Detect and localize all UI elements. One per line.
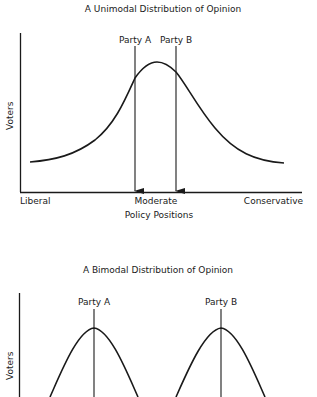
unimodal-y-label: Voters — [5, 101, 15, 130]
tick-conservative: Conservative — [244, 196, 304, 206]
tick-moderate: Moderate — [135, 196, 178, 206]
bimodal-party-a-label: Party A — [78, 297, 111, 307]
bimodal-chart: A Bimodal Distribution of Opinion Voters… — [5, 265, 265, 397]
bimodal-title: A Bimodal Distribution of Opinion — [83, 265, 233, 275]
opinion-distribution-diagrams: A Unimodal Distribution of Opinion Voter… — [0, 0, 317, 397]
bimodal-y-label: Voters — [5, 351, 15, 380]
unimodal-x-label: Policy Positions — [125, 210, 194, 220]
tick-liberal: Liberal — [20, 196, 50, 206]
unimodal-curve — [30, 62, 284, 163]
bimodal-party-b-label: Party B — [205, 297, 237, 307]
unimodal-party-b-label: Party B — [160, 35, 192, 45]
unimodal-party-a-label: Party A — [119, 35, 152, 45]
unimodal-chart: A Unimodal Distribution of Opinion Voter… — [5, 4, 303, 220]
unimodal-title: A Unimodal Distribution of Opinion — [85, 4, 241, 14]
